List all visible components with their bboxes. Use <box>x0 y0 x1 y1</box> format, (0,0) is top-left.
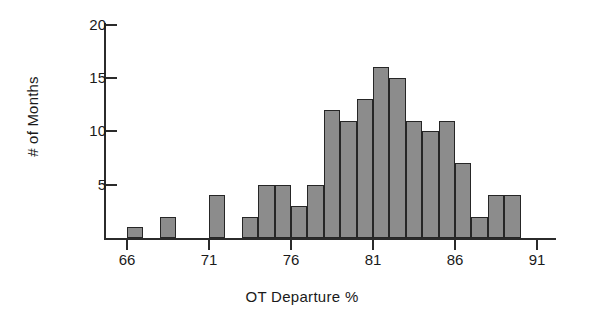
y-tick-label-10: 10 <box>58 123 106 138</box>
x-tick-label-66: 66 <box>107 252 147 268</box>
bar-83 <box>406 121 422 238</box>
x-tick-86 <box>454 240 456 250</box>
x-tick-label-81: 81 <box>353 252 393 268</box>
bar-88 <box>488 195 504 238</box>
bar-71 <box>209 195 225 238</box>
y-tick-10 <box>106 130 117 132</box>
x-tick-label-71: 71 <box>189 252 229 268</box>
bar-75 <box>275 185 291 238</box>
y-tick-label-text: 5 <box>72 177 106 192</box>
bar-89 <box>504 195 520 238</box>
bar-80 <box>357 99 373 238</box>
bar-82 <box>389 78 405 238</box>
x-axis-line <box>104 238 556 240</box>
bar-79 <box>340 121 356 238</box>
bar-86 <box>455 163 471 238</box>
bar-76 <box>291 206 307 238</box>
x-tick-label-91: 91 <box>517 252 557 268</box>
y-tick-15 <box>106 77 117 79</box>
y-axis-title: # of Months <box>24 47 41 187</box>
y-tick-20 <box>106 24 117 26</box>
bar-85 <box>439 121 455 238</box>
x-tick-91 <box>536 240 538 250</box>
x-tick-label-76: 76 <box>271 252 311 268</box>
bar-87 <box>471 217 487 238</box>
x-tick-66 <box>126 240 128 250</box>
y-tick-label-20: 20 <box>58 17 106 32</box>
x-tick-76 <box>290 240 292 250</box>
histogram-chart: 5101520 667176818691 # of Months OT Depa… <box>0 0 604 324</box>
bar-78 <box>324 110 340 238</box>
bar-68 <box>160 217 176 238</box>
bar-74 <box>258 185 274 238</box>
y-tick-label-text: 10 <box>72 123 106 138</box>
x-tick-71 <box>208 240 210 250</box>
bar-73 <box>242 217 258 238</box>
y-tick-label-15: 15 <box>58 70 106 85</box>
y-tick-label-text: 20 <box>72 17 106 32</box>
bar-77 <box>307 185 323 238</box>
y-tick-label-5: 5 <box>58 177 106 192</box>
x-axis-title: OT Departure % <box>0 288 604 305</box>
x-tick-label-86: 86 <box>435 252 475 268</box>
plot-area: 5101520 667176818691 # of Months OT Depa… <box>0 0 604 324</box>
x-tick-81 <box>372 240 374 250</box>
bar-81 <box>373 67 389 238</box>
bar-66 <box>127 227 143 238</box>
bar-84 <box>422 131 438 238</box>
y-tick-label-text: 15 <box>72 70 106 85</box>
y-tick-5 <box>106 184 117 186</box>
